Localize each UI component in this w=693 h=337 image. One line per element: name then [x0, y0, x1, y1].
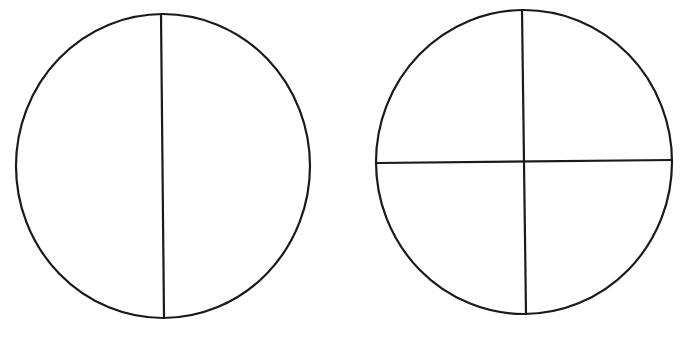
vertical-divider-line: [161, 14, 164, 318]
horizontal-divider-line: [377, 160, 672, 163]
circle-quarters-figure: [376, 10, 672, 314]
circle-halves-figure: [16, 14, 310, 318]
fraction-circles-diagram: [0, 0, 693, 337]
diagram-canvas: [0, 0, 693, 337]
